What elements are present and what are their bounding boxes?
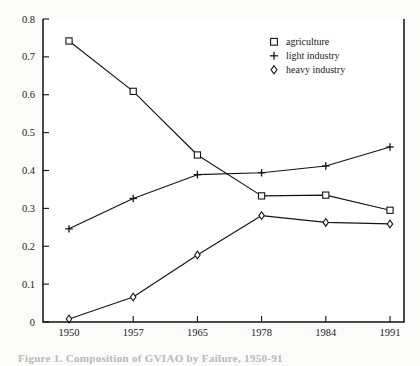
y-tick-label: 0.4: [22, 165, 36, 176]
line-chart: 00.10.20.30.40.50.60.70.8 19501957196519…: [0, 0, 420, 366]
y-axis-tick-labels: 00.10.20.30.40.50.60.70.8: [22, 14, 36, 328]
legend-label: light industry: [286, 50, 340, 61]
figure-caption: Figure 1. Composition of GVIAO by Failur…: [18, 352, 408, 366]
y-tick-label: 0.6: [22, 89, 35, 100]
x-tick-label: 1991: [380, 327, 401, 338]
x-tick-label: 1965: [187, 327, 208, 338]
data-point-open-square: [66, 38, 72, 44]
y-tick-label: 0.5: [22, 127, 35, 138]
x-tick-label: 1978: [251, 327, 272, 338]
figure-container: 00.10.20.30.40.50.60.70.8 19501957196519…: [0, 0, 420, 366]
x-tick-label: 1957: [123, 327, 144, 338]
legend-label: heavy industry: [286, 64, 345, 75]
y-tick-label: 0.1: [22, 279, 35, 290]
legend-marker-open-square: [271, 38, 278, 45]
legend-label: agriculture: [286, 36, 330, 47]
y-tick-label: 0.3: [22, 203, 35, 214]
data-point-open-square: [194, 152, 200, 158]
data-point-open-square: [323, 192, 329, 198]
x-tick-label: 1950: [59, 327, 80, 338]
data-point-open-square: [259, 193, 265, 199]
y-tick-label: 0.7: [22, 51, 35, 62]
x-tick-label: 1984: [315, 327, 337, 338]
x-axis-tick-labels: 195019571965197819841991: [59, 327, 401, 338]
y-tick-label: 0: [30, 317, 35, 328]
plot-background: [43, 19, 404, 322]
data-point-open-square: [387, 207, 393, 213]
y-tick-label: 0.8: [22, 14, 35, 25]
data-point-open-square: [130, 88, 136, 94]
y-tick-label: 0.2: [22, 241, 35, 252]
